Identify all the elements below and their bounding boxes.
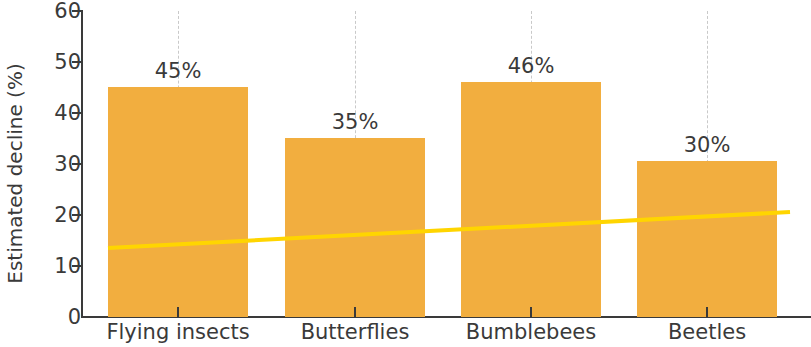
x-tick-label-beetles: Beetles [617,320,797,344]
y-axis-spine [81,11,83,318]
bar-label-butterflies: 35% [285,110,425,134]
x-tick-mark-flying-insects [177,307,179,318]
x-tick-label-butterflies: Butterflies [265,320,445,344]
bar-chart: Estimated decline (%) 60 50 40 30 20 10 … [0,0,811,347]
bar-label-beetles: 30% [637,133,777,157]
x-tick-mark-butterflies [354,307,356,318]
x-tick-mark-beetles [706,307,708,318]
bar-label-bumblebees: 46% [461,54,601,78]
x-tick-label-bumblebees: Bumblebees [441,320,621,344]
bar-label-flying-insects: 45% [108,59,248,83]
y-tick-label-0: 0 [17,305,81,329]
bar-flying-insects [108,87,248,317]
x-tick-label-flying-insects: Flying insects [88,320,268,344]
bar-butterflies [285,138,425,317]
bar-bumblebees [461,82,601,317]
bar-beetles [637,161,777,317]
x-tick-mark-bumblebees [530,307,532,318]
